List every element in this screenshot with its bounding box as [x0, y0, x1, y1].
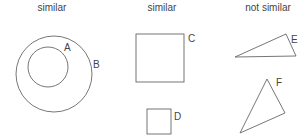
- label-d: D: [174, 111, 181, 122]
- circle-a: [28, 47, 68, 87]
- square-d: [147, 109, 171, 134]
- label-b: B: [93, 59, 100, 70]
- triangle-e: [235, 34, 296, 57]
- label-a: A: [64, 42, 71, 53]
- label-f: F: [276, 77, 282, 88]
- label-e: E: [291, 34, 298, 45]
- square-c: [136, 34, 184, 82]
- label-c: C: [188, 33, 195, 44]
- circle-b: [16, 36, 92, 112]
- similarity-diagram: A B C D E F: [0, 0, 307, 140]
